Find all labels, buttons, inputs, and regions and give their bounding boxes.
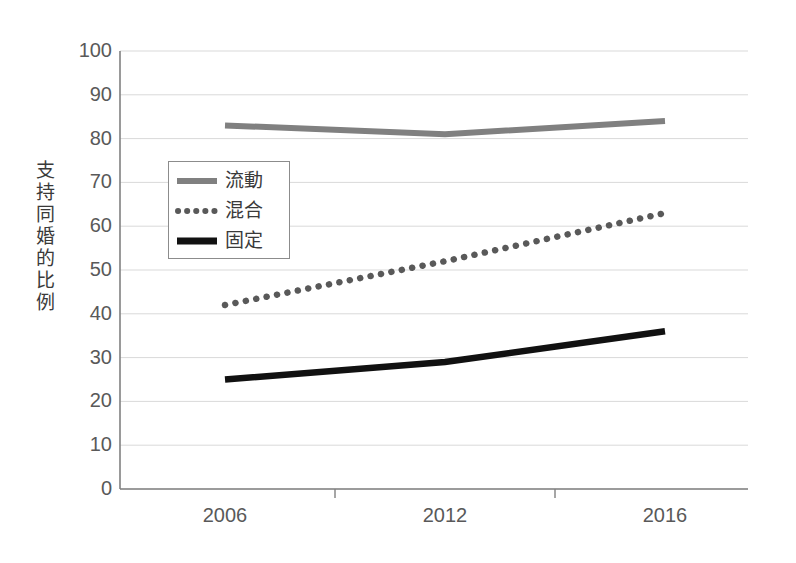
data-series-layer: [225, 121, 665, 379]
x-tick-label: 2006: [165, 505, 285, 525]
series-line: [225, 213, 665, 305]
legend: 流動 混合 固定: [168, 161, 290, 259]
legend-item-mixed: 混合: [175, 196, 283, 226]
x-tick-label: 2012: [385, 505, 505, 525]
gridlines: [120, 51, 748, 489]
y-tick-label: 20: [58, 390, 112, 410]
y-tick-label: 30: [58, 347, 112, 367]
legend-swatch-solid-gray-icon: [175, 174, 219, 188]
legend-label-fluid: 流動: [225, 171, 263, 191]
plot-area: [0, 0, 796, 563]
line-chart: 支持同婚的比例 0102030405060708090100 200620122…: [0, 0, 796, 563]
series-line: [225, 331, 665, 379]
y-tick-label: 50: [58, 259, 112, 279]
x-tick-label: 2016: [605, 505, 725, 525]
legend-label-mixed: 混合: [225, 201, 263, 221]
x-tick-marks: [335, 489, 555, 498]
legend-swatch-solid-black-icon: [175, 234, 219, 248]
y-tick-label: 0: [58, 478, 112, 498]
y-tick-label: 40: [58, 303, 112, 323]
y-tick-label: 60: [58, 215, 112, 235]
y-tick-label: 90: [58, 84, 112, 104]
legend-swatch-dotted-icon: [175, 204, 219, 218]
y-tick-label: 80: [58, 128, 112, 148]
series-line: [225, 121, 665, 134]
legend-label-fixed: 固定: [225, 231, 263, 251]
y-tick-label: 10: [58, 434, 112, 454]
y-tick-label: 100: [58, 40, 112, 60]
y-tick-label: 70: [58, 171, 112, 191]
legend-item-fixed: 固定: [175, 226, 283, 256]
legend-item-fluid: 流動: [175, 166, 283, 196]
